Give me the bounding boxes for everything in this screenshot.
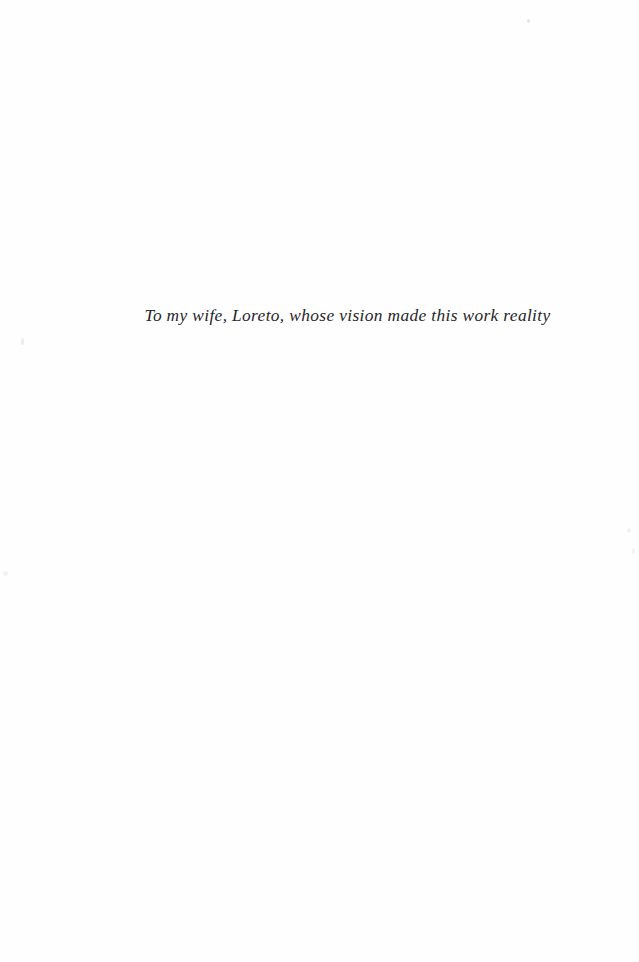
scan-speck-icon (632, 548, 635, 554)
dedication-text: To my wife, Loreto, whose vision made th… (88, 303, 550, 327)
scan-speck-icon (21, 338, 24, 345)
book-page: To my wife, Loreto, whose vision made th… (0, 0, 639, 962)
scan-speck-icon (627, 528, 631, 533)
scan-speck-icon (3, 571, 8, 576)
dedication-block: To my wife, Loreto, whose vision made th… (0, 303, 639, 327)
scan-speck-icon (527, 19, 530, 23)
